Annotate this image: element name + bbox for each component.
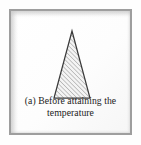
figure-container: (a) Before attaining the temperature xyxy=(0,0,141,145)
triangle-hatch-fill xyxy=(54,31,90,98)
figure-caption: (a) Before attaining the temperature xyxy=(14,95,127,120)
triangle-svg xyxy=(11,15,130,101)
triangle-illustration xyxy=(11,15,130,101)
caption-line-1: (a) Before attaining the xyxy=(14,95,127,107)
caption-line-2: temperature xyxy=(14,107,127,119)
figure-frame: (a) Before attaining the temperature xyxy=(9,9,132,135)
